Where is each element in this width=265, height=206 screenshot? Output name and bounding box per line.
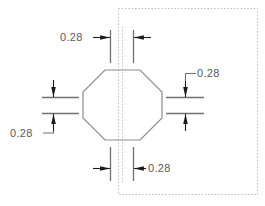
dimension-label-right: 0.28 — [197, 67, 220, 79]
dotted-boundary-rectangle — [119, 9, 258, 195]
leader-right — [186, 74, 197, 82]
dimension-top: 0.28 — [60, 30, 151, 63]
drawing-canvas: 0.28 0.28 0.28 0.28 — [0, 0, 265, 206]
dimension-right: 0.28 — [166, 67, 220, 131]
dimension-label-left: 0.28 — [10, 127, 33, 139]
dimension-label-top: 0.28 — [60, 31, 83, 43]
technical-drawing-svg: 0.28 0.28 0.28 0.28 — [0, 0, 265, 206]
leader-left — [43, 131, 54, 133]
dimension-left: 0.28 — [10, 80, 79, 139]
dimension-bottom: 0.28 — [93, 147, 171, 181]
dimension-label-bottom: 0.28 — [148, 162, 171, 174]
